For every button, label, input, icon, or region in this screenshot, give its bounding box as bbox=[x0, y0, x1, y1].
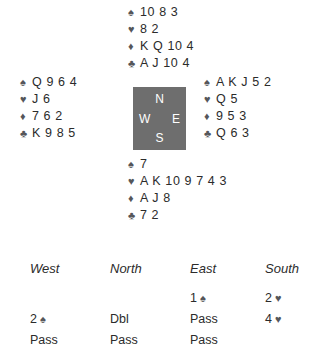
bridge-deal-diagram: ♠10 8 3 ♥8 2 ♦K Q 10 4 ♣A J 10 4 ♠Q 9 6 … bbox=[0, 0, 314, 250]
bid-suit-icon: ♠ bbox=[40, 309, 46, 330]
south-hearts-line: ♥A K 10 9 7 4 3 bbox=[128, 173, 227, 190]
auction-bid-east: Pass bbox=[190, 309, 265, 330]
east-hearts-line: ♥Q 5 bbox=[204, 91, 271, 108]
north-clubs-line: ♣A J 10 4 bbox=[128, 55, 194, 72]
bid-level: Dbl bbox=[110, 312, 129, 326]
bid-level: Pass bbox=[190, 333, 218, 345]
north-spades-cards: 10 8 3 bbox=[140, 4, 178, 21]
north-diamonds-line: ♦K Q 10 4 bbox=[128, 38, 194, 55]
heart-icon: ♥ bbox=[128, 21, 140, 38]
auction-bid-east: Pass bbox=[190, 330, 265, 345]
south-diamonds-line: ♦A J 8 bbox=[128, 190, 227, 207]
heart-icon: ♥ bbox=[204, 91, 216, 108]
auction-body: 1♠ 2♥ 2♠ Dbl Pass 4♥ Pass Pass Pass bbox=[0, 288, 314, 345]
auction-bid-south: 2♥ bbox=[265, 288, 314, 309]
auction-bid-east: 1♠ bbox=[190, 288, 265, 309]
spade-icon: ♠ bbox=[204, 74, 216, 91]
bid-level: Pass bbox=[30, 333, 58, 345]
south-spades-line: ♠7 bbox=[128, 156, 227, 173]
bid-level: 1 bbox=[190, 291, 197, 305]
west-diamonds-line: ♦7 6 2 bbox=[20, 108, 77, 125]
bid-suit-icon: ♠ bbox=[200, 288, 206, 309]
auction-bid-west bbox=[0, 288, 110, 309]
auction-header-north: North bbox=[110, 258, 190, 288]
auction-header-west: West bbox=[0, 258, 110, 288]
south-spades-cards: 7 bbox=[140, 156, 148, 173]
west-hearts-line: ♥J 6 bbox=[20, 91, 77, 108]
diamond-icon: ♦ bbox=[128, 38, 140, 55]
compass-north-label: N bbox=[133, 93, 186, 105]
bid-level: 2 bbox=[265, 291, 272, 305]
auction-table-wrapper: West North East South 1♠ 2♥ 2♠ Dbl Pass … bbox=[0, 258, 314, 345]
compass-south-label: S bbox=[133, 132, 186, 144]
auction-header-south: South bbox=[265, 258, 314, 288]
south-clubs-cards: 7 2 bbox=[140, 207, 159, 224]
club-icon: ♣ bbox=[128, 55, 140, 72]
west-clubs-line: ♣K 9 8 5 bbox=[20, 125, 77, 142]
club-icon: ♣ bbox=[204, 125, 216, 142]
east-spades-cards: A K J 5 2 bbox=[216, 74, 271, 91]
compass-box: N W E S bbox=[133, 87, 186, 150]
spade-icon: ♠ bbox=[128, 156, 140, 173]
compass-west-label: W bbox=[139, 113, 150, 125]
spade-icon: ♠ bbox=[128, 4, 140, 21]
auction-row: 1♠ 2♥ bbox=[0, 288, 314, 309]
bid-suit-icon: ♥ bbox=[275, 288, 282, 309]
east-hearts-cards: Q 5 bbox=[216, 91, 238, 108]
north-diamonds-cards: K Q 10 4 bbox=[140, 38, 194, 55]
auction-bid-north: Dbl bbox=[110, 309, 190, 330]
bid-level: Pass bbox=[110, 333, 138, 345]
north-hearts-line: ♥8 2 bbox=[128, 21, 194, 38]
auction-bid-west: Pass bbox=[0, 330, 110, 345]
west-diamonds-cards: 7 6 2 bbox=[32, 108, 63, 125]
diamond-icon: ♦ bbox=[204, 108, 216, 125]
auction-row: 2♠ Dbl Pass 4♥ bbox=[0, 309, 314, 330]
compass-east-label: E bbox=[172, 113, 180, 125]
auction-bid-south bbox=[265, 330, 314, 345]
south-diamonds-cards: A J 8 bbox=[140, 190, 171, 207]
auction-header-row: West North East South bbox=[0, 258, 314, 288]
south-hearts-cards: A K 10 9 7 4 3 bbox=[140, 173, 227, 190]
bid-level: Pass bbox=[190, 312, 218, 326]
south-clubs-line: ♣7 2 bbox=[128, 207, 227, 224]
hand-west: ♠Q 9 6 4 ♥J 6 ♦7 6 2 ♣K 9 8 5 bbox=[20, 74, 77, 142]
hand-south: ♠7 ♥A K 10 9 7 4 3 ♦A J 8 ♣7 2 bbox=[128, 156, 227, 224]
east-spades-line: ♠A K J 5 2 bbox=[204, 74, 271, 91]
west-hearts-cards: J 6 bbox=[32, 91, 50, 108]
spade-icon: ♠ bbox=[20, 74, 32, 91]
north-spades-line: ♠10 8 3 bbox=[128, 4, 194, 21]
heart-icon: ♥ bbox=[128, 173, 140, 190]
diamond-icon: ♦ bbox=[128, 190, 140, 207]
west-spades-cards: Q 9 6 4 bbox=[32, 74, 77, 91]
east-diamonds-line: ♦9 5 3 bbox=[204, 108, 271, 125]
heart-icon: ♥ bbox=[20, 91, 32, 108]
auction-header-east: East bbox=[190, 258, 265, 288]
west-spades-line: ♠Q 9 6 4 bbox=[20, 74, 77, 91]
hand-east: ♠A K J 5 2 ♥Q 5 ♦9 5 3 ♣Q 6 3 bbox=[204, 74, 271, 142]
east-diamonds-cards: 9 5 3 bbox=[216, 108, 247, 125]
auction-bid-west: 2♠ bbox=[0, 309, 110, 330]
auction-table: West North East South 1♠ 2♥ 2♠ Dbl Pass … bbox=[0, 258, 314, 345]
east-clubs-line: ♣Q 6 3 bbox=[204, 125, 271, 142]
west-clubs-cards: K 9 8 5 bbox=[32, 125, 76, 142]
diamond-icon: ♦ bbox=[20, 108, 32, 125]
bid-level: 2 bbox=[30, 312, 37, 326]
club-icon: ♣ bbox=[20, 125, 32, 142]
north-hearts-cards: 8 2 bbox=[140, 21, 159, 38]
auction-bid-north: Pass bbox=[110, 330, 190, 345]
auction-bid-north bbox=[110, 288, 190, 309]
auction-row: Pass Pass Pass bbox=[0, 330, 314, 345]
bid-suit-icon: ♥ bbox=[275, 309, 282, 330]
bid-level: 4 bbox=[265, 312, 272, 326]
club-icon: ♣ bbox=[128, 207, 140, 224]
hand-north: ♠10 8 3 ♥8 2 ♦K Q 10 4 ♣A J 10 4 bbox=[128, 4, 194, 72]
north-clubs-cards: A J 10 4 bbox=[140, 55, 190, 72]
auction-bid-south: 4♥ bbox=[265, 309, 314, 330]
east-clubs-cards: Q 6 3 bbox=[216, 125, 250, 142]
